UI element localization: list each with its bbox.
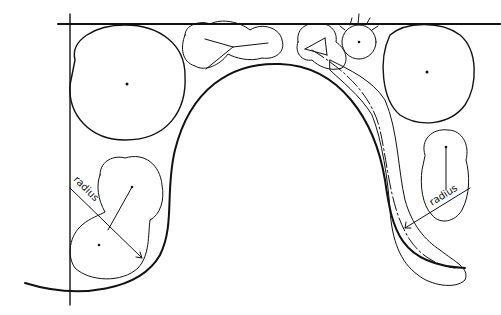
tree-center-dot [126,83,129,86]
planting-plan-diagram: radius radius [0,0,501,315]
plan-drawing: radius radius [0,0,501,315]
radius-label-right: radius [427,182,459,208]
radius-dimension-right: radius [405,182,470,228]
curved-bed-edge [25,64,465,291]
tree-center-dot [426,71,429,74]
shrub-group-top-center-left [182,21,282,68]
large-tree-top-right [383,24,474,122]
radius-label-left: radius [72,174,102,204]
large-tree-top-left [70,25,185,140]
shrub-group-right-lower [421,130,468,221]
shrub-group-top-center-right [297,24,346,70]
shrub-group-left-bottom [70,157,163,279]
